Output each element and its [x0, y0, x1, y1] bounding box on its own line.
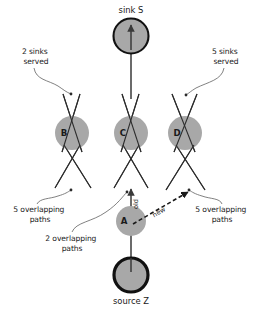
annotation-two-overlapping-paths-line-2: paths [62, 244, 83, 253]
edge-tag-old: old [132, 199, 140, 209]
annotation-two-sinks-served: 2 sinks served [22, 47, 50, 66]
annotation-two-sinks-served-line-1: 2 sinks [22, 47, 48, 56]
annotation-five-overlapping-paths-right-line-2: paths [212, 215, 233, 224]
annotation-five-overlapping-paths-right-line-1: 5 overlapping [195, 205, 246, 214]
leader-five-overlapping-right [189, 190, 222, 204]
annotation-two-overlapping-paths-line-1: 2 overlapping [45, 234, 96, 243]
leader-five-sinks-served [186, 68, 224, 95]
leader-dot-two-sinks-served [70, 93, 73, 96]
node-label-A: A [121, 216, 128, 226]
leader-dot-five-overlapping-right [188, 189, 191, 192]
leader-dot-five-overlapping-left [70, 189, 73, 192]
annotation-five-overlapping-paths-left: 5 overlapping paths [13, 205, 66, 224]
annotation-five-sinks-served-line-2: served [213, 57, 238, 66]
leader-dot-two-overlapping [126, 191, 129, 194]
annotation-two-overlapping-paths: 2 overlapping paths [45, 234, 98, 253]
source-Z-label: source Z [113, 296, 149, 306]
sink-S-label: sink S [119, 5, 144, 15]
network-path-diagram: sink S source Z B C D A old new 2 sinks … [0, 0, 267, 311]
annotation-five-overlapping-paths-left-line-1: 5 overlapping [13, 205, 64, 214]
annotation-five-sinks-served: 5 sinks served [212, 47, 240, 66]
diagram-canvas: sink S source Z B C D A old new 2 sinks … [0, 0, 267, 311]
leader-two-sinks-served [34, 68, 71, 94]
annotation-five-overlapping-paths-left-line-2: paths [30, 215, 51, 224]
leader-dot-five-sinks-served [185, 94, 188, 97]
node-label-D: D [173, 128, 180, 138]
annotation-two-sinks-served-line-2: served [23, 57, 48, 66]
edge-tag-new: new [151, 205, 167, 219]
node-label-B: B [61, 128, 68, 138]
node-label-C: C [120, 128, 126, 138]
annotation-five-sinks-served-line-1: 5 sinks [212, 47, 238, 56]
leader-five-overlapping-left [37, 190, 71, 204]
annotation-five-overlapping-paths-right: 5 overlapping paths [195, 205, 248, 224]
